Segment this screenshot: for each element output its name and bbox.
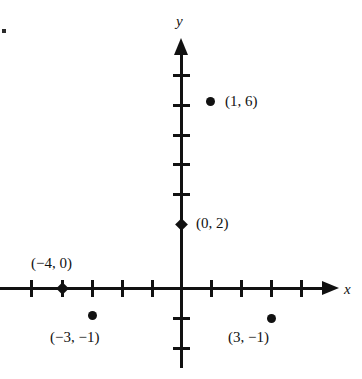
- x-axis-line: [0, 287, 332, 290]
- x-tick--2: [121, 280, 124, 297]
- y-axis-label: y: [176, 14, 183, 29]
- y-axis-arrowhead: [174, 38, 188, 55]
- y-tick-4: [173, 104, 190, 107]
- y-tick-5: [173, 74, 190, 77]
- x-tick--1: [151, 280, 154, 297]
- y-tick-1: [173, 193, 190, 196]
- x-tick-3: [270, 280, 273, 297]
- y-axis-line: [180, 52, 183, 368]
- y-tick-2: [173, 163, 190, 166]
- data-point-label--3--1: (−3, −1): [50, 330, 99, 345]
- data-point-marker--4-0: [56, 282, 69, 295]
- x-tick--3: [91, 280, 94, 297]
- x-tick-1: [210, 280, 213, 297]
- data-point-marker-3--1: [267, 314, 276, 323]
- y-tick--2: [173, 347, 190, 350]
- x-tick--5: [30, 280, 33, 297]
- data-point-label-0-2: (0, 2): [196, 216, 229, 231]
- data-point-label-3--1: (3, −1): [228, 330, 269, 345]
- coordinate-plane-figure: x y (1, 6) (0, 2) (−4, 0) (−3, −1) (3, −…: [0, 0, 362, 379]
- scan-speck: [2, 29, 6, 33]
- y-tick--1: [173, 317, 190, 320]
- data-point-label-1-6: (1, 6): [225, 94, 258, 109]
- data-point-marker-0-2: [175, 218, 188, 231]
- data-point-marker--3--1: [88, 311, 97, 320]
- x-axis-arrowhead: [322, 281, 339, 295]
- x-axis-label: x: [344, 282, 351, 297]
- data-point-label--4-0: (−4, 0): [31, 256, 72, 271]
- y-tick-3: [173, 134, 190, 137]
- x-tick-4: [300, 280, 303, 297]
- x-tick-2: [240, 280, 243, 297]
- data-point-marker-1-6: [206, 97, 215, 106]
